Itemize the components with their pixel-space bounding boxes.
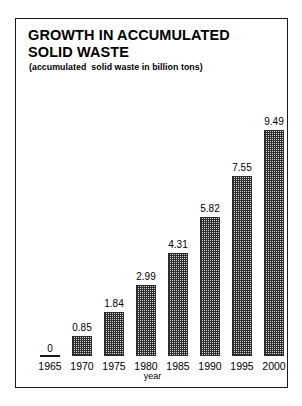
bar-group: 2.991980 xyxy=(130,17,162,387)
bar[interactable] xyxy=(104,312,124,356)
x-axis-title: year xyxy=(16,371,289,381)
bar-value-label: 2.99 xyxy=(130,271,162,282)
bar-group: 7.551995 xyxy=(226,17,258,387)
bar-group: 01965 xyxy=(34,17,66,387)
bar-zero-marker xyxy=(40,355,60,357)
bar-value-label: 0.85 xyxy=(66,322,98,333)
bar-value-label: 0 xyxy=(34,343,66,354)
bar[interactable] xyxy=(168,253,188,356)
bar[interactable] xyxy=(72,336,92,356)
chart-frame: GROWTH IN ACCUMULATED SOLID WASTE (accum… xyxy=(15,18,288,388)
bar-group: 9.492000 xyxy=(258,17,290,387)
bar-group: 5.821990 xyxy=(194,17,226,387)
bar[interactable] xyxy=(136,285,156,356)
bar[interactable] xyxy=(264,130,284,356)
bar-value-label: 9.49 xyxy=(258,116,290,127)
plot-area: 019650.8519701.8419752.9919804.3119855.8… xyxy=(16,19,287,387)
bar-group: 4.311985 xyxy=(162,17,194,387)
bar[interactable] xyxy=(232,176,252,356)
bar-group: 1.841975 xyxy=(98,17,130,387)
bar[interactable] xyxy=(200,217,220,356)
bar-value-label: 5.82 xyxy=(194,203,226,214)
bar-value-label: 4.31 xyxy=(162,239,194,250)
bar-group: 0.851970 xyxy=(66,17,98,387)
bar-value-label: 1.84 xyxy=(98,298,130,309)
bar-value-label: 7.55 xyxy=(226,162,258,173)
